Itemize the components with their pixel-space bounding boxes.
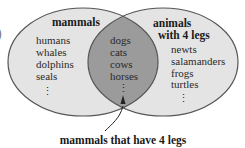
mammals-continuation: ⋮ [42,85,53,97]
intersection-continuation: ⋮ [118,82,129,94]
mammals-item: humans [36,34,70,46]
callout-label: mammals that have 4 legs [60,134,187,147]
four-legs-title-line-1: animals [153,17,192,29]
mammals-title: mammals [52,16,100,28]
intersection-item: horses [110,70,138,82]
four-legs-item: salamanders [171,55,225,67]
mammals-item: dolphins [36,58,74,70]
intersection-item: dogs [110,34,131,46]
mammals-item: seals [36,70,57,82]
intersection-item: cats [110,46,127,58]
four-legs-item: turtles [171,78,199,90]
four-legs-item: newts [171,43,197,55]
four-legs-continuation: ⋮ [178,92,189,104]
intersection-item: cows [110,58,133,70]
edge-mark: ) [0,26,2,42]
four-legs-title-line-2: with 4 legs [158,29,210,42]
venn-diagram: ) mammals humans whales dolphins seals ⋮… [0,0,245,148]
mammals-item: whales [36,46,67,58]
